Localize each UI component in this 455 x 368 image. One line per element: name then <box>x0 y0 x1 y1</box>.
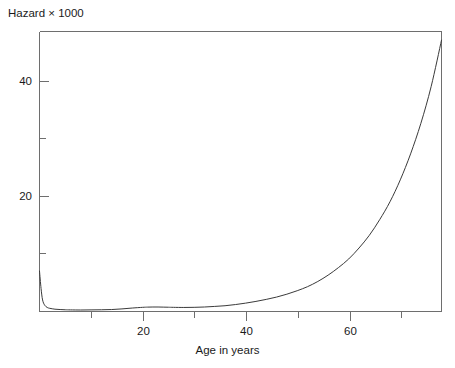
x-tick-label-20: 20 <box>123 325 164 337</box>
y-axis-ticks <box>40 82 49 254</box>
plot-frame <box>40 32 442 312</box>
x-axis-ticks <box>92 312 402 321</box>
x-axis-label: Age in years <box>0 344 455 356</box>
hazard-curve-line <box>40 40 442 310</box>
x-tick-label-60: 60 <box>330 325 371 337</box>
y-tick-label-20: 20 <box>0 190 32 202</box>
hazard-chart-figure: Hazard × 1000 40 20 2 <box>0 0 455 368</box>
y-tick-label-40: 40 <box>0 75 32 87</box>
plot-area <box>0 0 455 368</box>
x-tick-label-40: 40 <box>226 325 267 337</box>
